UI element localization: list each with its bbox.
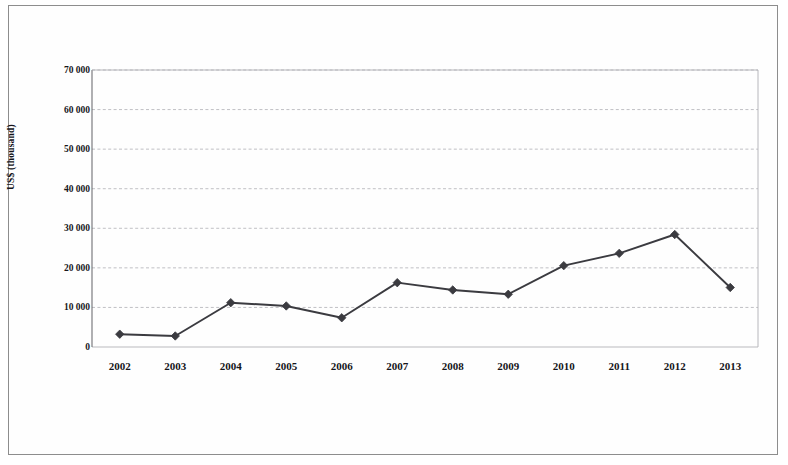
series-bilateral	[116, 230, 735, 340]
line-chart: US$ (thousand) 010 00020 00030 00040 000…	[0, 0, 788, 465]
data-point-marker	[227, 298, 235, 306]
x-tick-label: 2010	[553, 360, 575, 372]
data-point-marker	[449, 286, 457, 294]
x-tick-label: 2008	[442, 360, 464, 372]
x-tick-label: 2013	[719, 360, 741, 372]
x-tick-label: 2004	[220, 360, 242, 372]
x-tick-label: 2003	[164, 360, 186, 372]
series-line	[120, 235, 731, 336]
x-tick-label: 2007	[386, 360, 408, 372]
x-tick-label: 2011	[609, 360, 630, 372]
plot-area	[0, 0, 788, 465]
x-tick-label: 2005	[275, 360, 297, 372]
x-tick-label: 2012	[664, 360, 686, 372]
data-point-marker	[504, 290, 512, 298]
x-tick-label: 2006	[331, 360, 353, 372]
data-point-marker	[560, 261, 568, 269]
x-tick-label: 2002	[109, 360, 131, 372]
data-point-marker	[171, 332, 179, 340]
data-point-marker	[282, 302, 290, 310]
data-point-marker	[615, 249, 623, 257]
x-tick-label: 2009	[497, 360, 519, 372]
data-point-marker	[116, 330, 124, 338]
